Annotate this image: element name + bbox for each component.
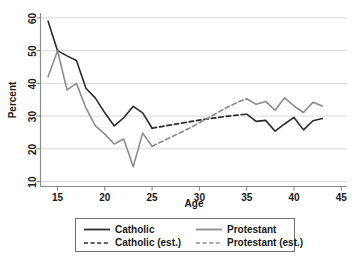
y-tick-label-20: 20 xyxy=(27,143,38,155)
x-tick-label-20: 20 xyxy=(99,192,111,203)
legend-label-catholic-est: Catholic (est.) xyxy=(115,237,181,248)
x-tick-label-15: 15 xyxy=(52,192,64,203)
x-axis-label: Age xyxy=(185,198,204,209)
y-tick-label-10: 10 xyxy=(27,176,38,188)
y-tick-label-60: 60 xyxy=(27,12,38,24)
y-tick-label-50: 50 xyxy=(27,45,38,57)
legend-label-protestant-est: Protestant (est.) xyxy=(227,237,303,248)
x-tick-label-40: 40 xyxy=(288,192,300,203)
y-tick-label-40: 40 xyxy=(27,78,38,90)
x-tick-label-25: 25 xyxy=(147,192,159,203)
legend-label-catholic: Catholic xyxy=(115,224,155,235)
legend-label-protestant: Protestant xyxy=(227,224,277,235)
y-axis-label: Percent xyxy=(7,81,18,118)
chart-figure: 102030405060 15202530354045 Percent Age … xyxy=(0,0,355,266)
x-tick-label-35: 35 xyxy=(241,192,253,203)
x-tick-label-45: 45 xyxy=(336,192,348,203)
y-tick-label-30: 30 xyxy=(27,111,38,123)
